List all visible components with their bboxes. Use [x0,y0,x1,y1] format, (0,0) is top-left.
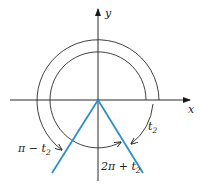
y-axis-label: y [104,7,112,20]
label-two-pi-plus-t2: 2π + t2 [100,160,141,175]
label-pi-minus-t2: π − t2 [17,142,51,157]
ray-left [52,100,98,173]
label-t2: t2 [148,120,157,135]
x-axis-label: x [188,103,195,116]
angle-diagram: x y t2 π − t2 2π + t2 [0,0,210,191]
